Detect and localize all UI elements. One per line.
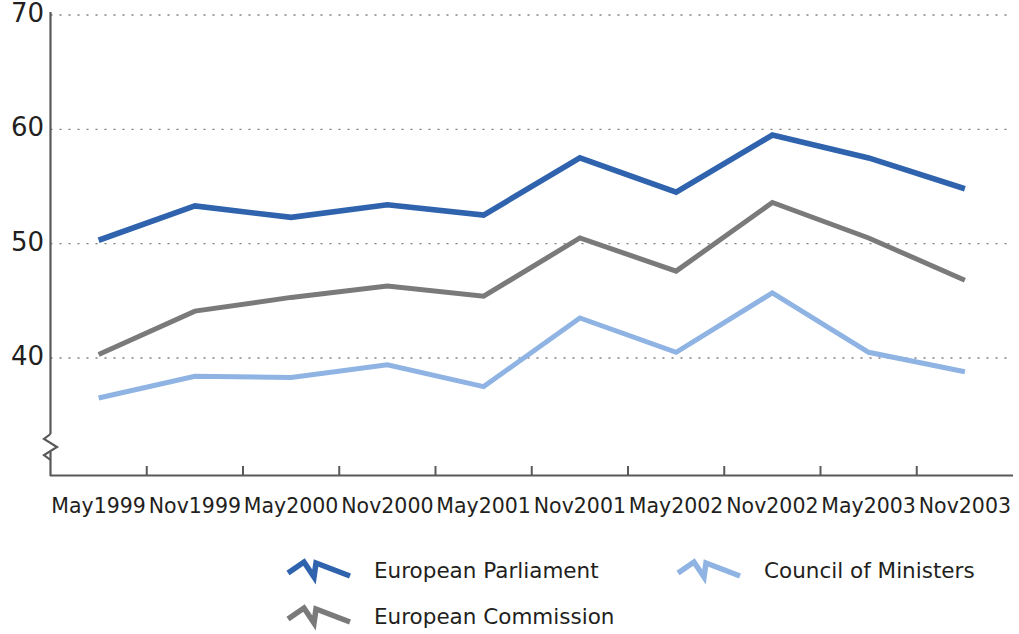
legend-key-line-icon [286,555,352,585]
legend-item-council-of-ministers: Council of Ministers [676,553,975,587]
legend-key-line-icon [676,555,742,585]
y-axis-tick-label: 70 [0,0,44,28]
x-axis-tick-label: May1999 [51,494,146,518]
y-axis-tick-label: 60 [0,112,44,142]
x-axis-ticks [147,466,917,476]
x-axis-tick-label: May2002 [629,494,724,518]
x-axis-tick-label: Nov2003 [919,494,1011,518]
legend-label: European Parliament [374,558,599,583]
legend-item-european-commission: European Commission [286,599,614,633]
x-axis-tick-label: May2001 [436,494,531,518]
chart-legend: European Parliament European Commission … [0,545,1019,634]
x-axis-tick-label: May2003 [821,494,916,518]
x-axis-tick-label: May2000 [244,494,339,518]
x-axis-tick-label: Nov2001 [534,494,626,518]
legend-item-european-parliament: European Parliament [286,553,599,587]
y-axis-tick-label: 50 [0,227,44,257]
line-chart: 70605040 May1999Nov1999May2000Nov2000May… [0,0,1019,634]
legend-label: European Commission [374,604,614,629]
y-axis-tick-label: 40 [0,341,44,371]
chart-plot-area [0,0,1019,634]
x-axis-tick-label: Nov1999 [149,494,241,518]
legend-label: Council of Ministers [764,558,975,583]
legend-key-line-icon [286,601,352,631]
x-axis-tick-label: Nov2000 [341,494,433,518]
x-axis-tick-label: Nov2002 [726,494,818,518]
